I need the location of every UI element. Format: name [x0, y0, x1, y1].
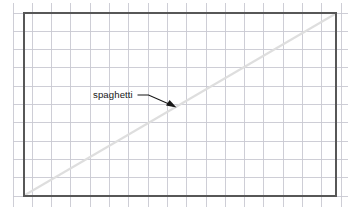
- figure-canvas: spaghetti: [0, 0, 357, 213]
- spaghetti-plot-figure: spaghetti: [0, 0, 357, 213]
- annotation-label: spaghetti: [93, 89, 133, 100]
